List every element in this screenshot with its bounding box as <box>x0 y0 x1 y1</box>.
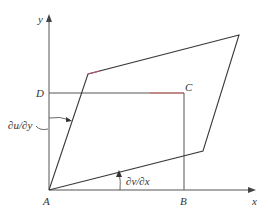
x-axis-label: x <box>252 196 257 207</box>
point-label-a: A <box>43 196 50 207</box>
y-axis-arrow-icon <box>46 14 52 22</box>
point-label-d: D <box>36 88 44 99</box>
deformed-edge-accent <box>88 71 100 74</box>
shear-y-leader <box>36 126 48 130</box>
shear-x-arrow-icon <box>116 170 122 177</box>
deformed-shape <box>49 35 239 190</box>
shear-x-label: ∂v/∂x <box>126 176 150 187</box>
shear-y-arrow-icon <box>66 117 72 122</box>
shear-y-label: ∂u/∂y <box>8 120 32 131</box>
x-axis-arrow-icon <box>248 187 256 193</box>
point-label-c: C <box>185 82 192 93</box>
y-axis-label: y <box>38 14 43 25</box>
point-label-b: B <box>180 196 187 207</box>
